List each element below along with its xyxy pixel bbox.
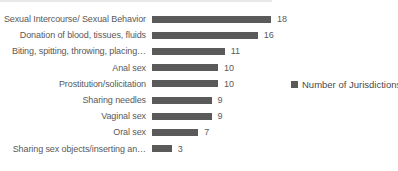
legend-marker-icon <box>291 81 298 88</box>
value-label: 10 <box>224 79 234 89</box>
value-label: 18 <box>277 14 287 24</box>
scan-artifact <box>0 0 272 2</box>
category-label: Vaginal sex <box>0 111 152 121</box>
value-label: 10 <box>224 63 234 73</box>
bar <box>152 48 225 55</box>
bar <box>152 113 212 120</box>
bar-row: Oral sex 7 <box>0 124 398 140</box>
category-label: Sexual Intercourse/ Sexual Behavior <box>0 14 152 24</box>
category-label: Biting, spitting, throwing, placing… <box>0 46 152 56</box>
category-label: Oral sex <box>0 127 152 137</box>
bar-row: Sharing needles 9 <box>0 92 398 108</box>
category-label: Prostitution/solicitation <box>0 79 152 89</box>
bar-row: Donation of blood, tissues, fluids 16 <box>0 27 398 43</box>
value-label: 9 <box>218 111 223 121</box>
category-label: Sharing needles <box>0 95 152 105</box>
legend-label: Number of Jurisdictions <box>302 79 398 90</box>
category-label: Anal sex <box>0 63 152 73</box>
value-label: 9 <box>218 95 223 105</box>
bar <box>152 129 198 136</box>
category-label: Sharing sex objects/inserting an… <box>0 144 152 154</box>
bar <box>152 16 271 23</box>
value-label: 7 <box>204 127 209 137</box>
bar-row: Sharing sex objects/inserting an… 3 <box>0 141 398 157</box>
bar-chart: Sexual Intercourse/ Sexual Behavior 18 D… <box>0 0 398 171</box>
bar-row: Anal sex 10 <box>0 60 398 76</box>
bar-row: Biting, spitting, throwing, placing… 11 <box>0 43 398 59</box>
value-label: 3 <box>178 144 183 154</box>
bar <box>152 80 218 87</box>
bar <box>152 32 258 39</box>
bar <box>152 97 212 104</box>
bar-row: Vaginal sex 9 <box>0 108 398 124</box>
bar <box>152 64 218 71</box>
category-label: Donation of blood, tissues, fluids <box>0 30 152 40</box>
value-label: 11 <box>231 46 240 56</box>
value-label: 16 <box>264 30 274 40</box>
bar <box>152 145 172 152</box>
bar-row: Sexual Intercourse/ Sexual Behavior 18 <box>0 11 398 27</box>
legend: Number of Jurisdictions <box>291 79 398 90</box>
